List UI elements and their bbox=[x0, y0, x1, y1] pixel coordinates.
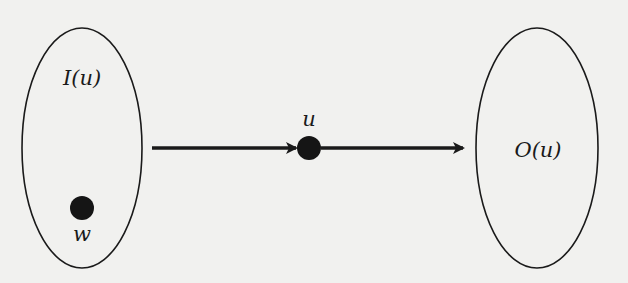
in-set-label: I(u) bbox=[62, 66, 101, 90]
node-w-label: w bbox=[73, 222, 91, 246]
out-set-group: O(u) bbox=[476, 28, 598, 268]
diagram-svg: I(u) w u O(u) bbox=[0, 0, 628, 283]
diagram-canvas: I(u) w u O(u) bbox=[0, 0, 628, 283]
node-u-dot bbox=[297, 136, 321, 160]
node-w-group: w bbox=[70, 196, 94, 246]
node-u-label: u bbox=[302, 107, 316, 131]
node-u-group: u bbox=[297, 107, 321, 160]
out-set-label: O(u) bbox=[514, 138, 561, 162]
node-w-dot bbox=[70, 196, 94, 220]
